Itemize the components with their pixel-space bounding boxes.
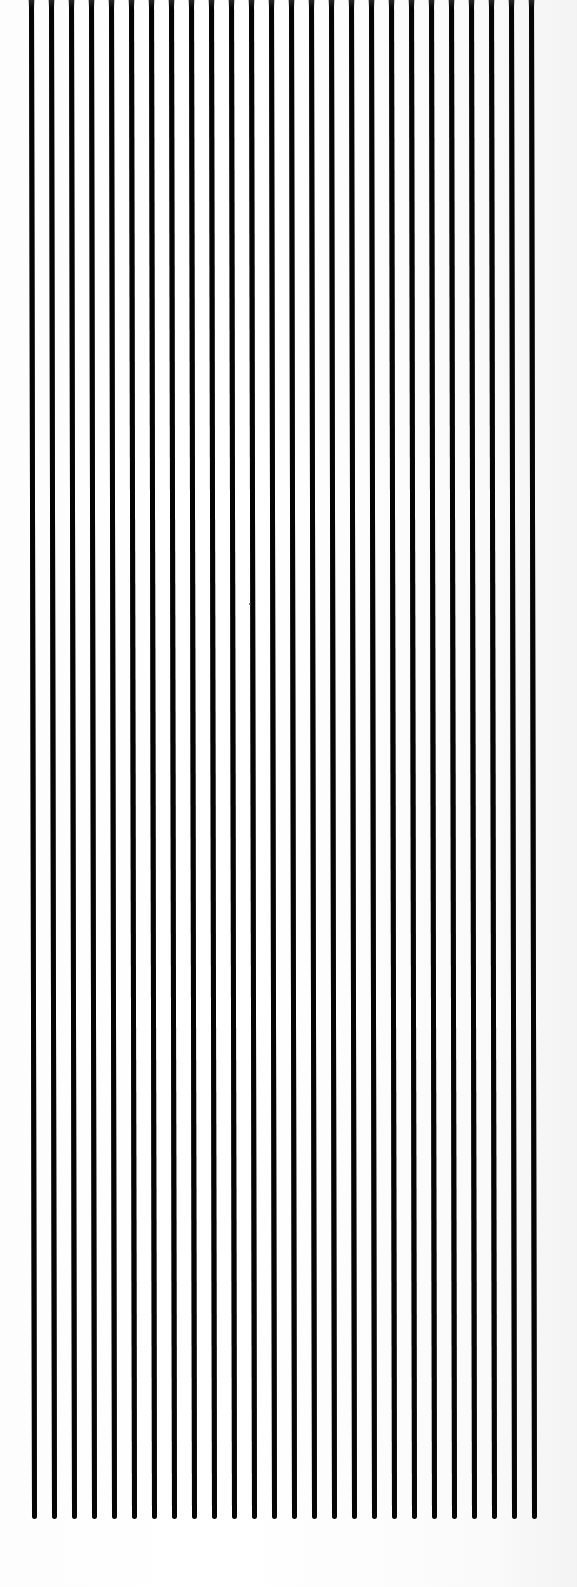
vertical-line	[329, 0, 337, 1519]
vertical-line	[29, 0, 37, 1519]
vertical-line	[189, 0, 197, 1519]
vertical-line	[369, 0, 377, 1519]
vertical-line	[249, 0, 257, 1519]
vertical-line	[349, 0, 357, 1519]
vertical-line	[149, 0, 157, 1519]
vertical-line	[289, 0, 297, 1519]
vertical-line	[489, 0, 497, 1519]
speck-mark	[249, 603, 251, 605]
vertical-line	[409, 0, 417, 1519]
vertical-line	[529, 0, 537, 1519]
vertical-line	[429, 0, 437, 1519]
vertical-line	[269, 0, 277, 1519]
vertical-line	[109, 0, 117, 1519]
vertical-line	[449, 0, 457, 1519]
vertical-line	[469, 0, 477, 1519]
line-pattern	[0, 0, 577, 1587]
vertical-line	[69, 0, 77, 1519]
vertical-line	[169, 0, 177, 1519]
vertical-line	[89, 0, 97, 1519]
vertical-line	[209, 0, 217, 1519]
vertical-line	[509, 0, 517, 1519]
vertical-line	[389, 0, 397, 1519]
vertical-line	[229, 0, 237, 1519]
vertical-line	[49, 0, 57, 1519]
vertical-line	[309, 0, 317, 1519]
vertical-line	[129, 0, 137, 1519]
